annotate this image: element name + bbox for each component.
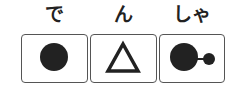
sound-box-de — [21, 34, 88, 83]
kana-label-n: ん — [90, 2, 156, 26]
kana-label-sha: しゃ — [159, 2, 225, 26]
sound-box-n — [90, 34, 157, 83]
circle-with-small-circle-icon — [160, 35, 223, 81]
sound-box-sha — [159, 34, 225, 83]
kana-label-de: で — [21, 2, 87, 26]
filled-circle-icon — [22, 35, 86, 81]
triangle-icon — [91, 35, 155, 81]
